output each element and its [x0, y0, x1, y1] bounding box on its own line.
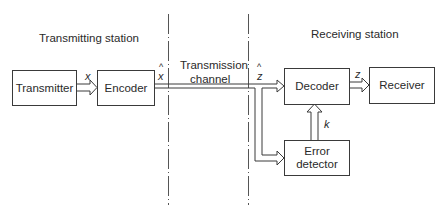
decoder-block: Decoder [284, 68, 350, 105]
signal-z-hat: z [257, 71, 263, 82]
error-detector-label-line1: Error [304, 145, 330, 158]
signal-x-hat: x [158, 71, 164, 82]
section-transmitting-station: Transmitting station [39, 32, 139, 45]
arrow-transmitter-encoder [76, 80, 97, 95]
error-detector-label-line2: detector [296, 158, 338, 171]
arrow-errordetector-decoder [307, 104, 322, 140]
arrow-decoder-receiver [349, 78, 369, 92]
error-detector-block: Error detector [284, 140, 350, 176]
section-receiving-station: Receiving station [311, 28, 399, 41]
receiver-label: Receiver [379, 79, 424, 92]
arrow-channel-decoder [154, 80, 284, 165]
receiver-block: Receiver [369, 67, 435, 104]
decoder-label: Decoder [295, 80, 338, 93]
encoder-block: Encoder [97, 70, 155, 106]
transmitter-block: Transmitter [12, 70, 77, 106]
section-channel-line2: channel [190, 73, 230, 86]
transmitter-label: Transmitter [16, 82, 74, 95]
section-channel-line1: Transmission [180, 59, 248, 72]
signal-z: z [355, 69, 361, 80]
encoder-label: Encoder [105, 82, 148, 95]
communication-system-diagram: Transmitting station Transmission channe… [0, 0, 444, 213]
signal-x: x [85, 71, 91, 82]
signal-k: k [324, 119, 330, 130]
